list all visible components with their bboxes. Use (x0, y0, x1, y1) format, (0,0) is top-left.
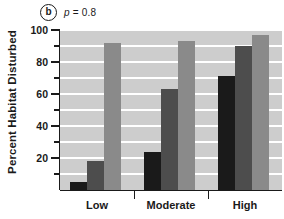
x-axis-separator (134, 190, 135, 199)
bar (235, 46, 252, 190)
y-tick-label: 20 (36, 152, 48, 164)
bar (218, 76, 235, 190)
panel-label: b p = 0.8 (40, 4, 96, 20)
y-axis: 20406080100 (0, 30, 60, 190)
x-axis-label: Moderate (147, 199, 196, 211)
bar-group (218, 30, 269, 190)
panel-letter: b (40, 4, 57, 21)
y-tick-major (51, 29, 60, 30)
bar (144, 152, 161, 190)
figure-panel-b: b p = 0.8 Percent Habitat Disturbed 2040… (0, 0, 284, 219)
x-axis-label: Low (86, 199, 108, 211)
bars-layer (60, 30, 282, 190)
bar-group (144, 30, 195, 190)
y-tick-label: 40 (36, 120, 48, 132)
bar (161, 89, 178, 190)
y-tick-major (51, 157, 60, 158)
x-axis-line (60, 190, 282, 191)
bar (104, 43, 121, 190)
bar-group (70, 30, 121, 190)
p-value: = 0.8 (70, 7, 97, 18)
y-tick-label: 100 (30, 24, 48, 36)
bar (178, 41, 195, 190)
x-axis: LowModerateHigh (60, 190, 282, 219)
bar (252, 35, 269, 190)
bar (87, 161, 104, 190)
y-tick-label: 60 (36, 88, 48, 100)
y-tick-major (51, 61, 60, 62)
panel-annotation: p = 0.8 (64, 7, 96, 18)
y-tick-major (51, 93, 60, 94)
y-tick-label: 80 (36, 56, 48, 68)
x-axis-label: High (233, 199, 257, 211)
bar (70, 182, 87, 190)
x-axis-separator (208, 190, 209, 199)
y-tick-major (51, 125, 60, 126)
